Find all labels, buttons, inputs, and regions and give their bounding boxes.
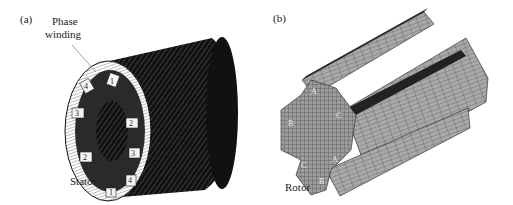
- leader-line: [72, 45, 96, 72]
- rotor-mesh-illustration: A B C A C B: [256, 0, 513, 205]
- phase-number: 4: [128, 176, 132, 185]
- phase-number: 3: [131, 149, 135, 158]
- panel-tag-b: (b): [273, 12, 286, 24]
- label-winding: winding: [45, 28, 81, 40]
- figure-panel-rotor: A B C A C B (b) Rotor: [256, 0, 513, 205]
- label-phase: Phase: [52, 15, 78, 27]
- phase-number: 4: [84, 82, 88, 91]
- label-rotor: Rotor: [285, 181, 310, 193]
- stator-mesh-illustration: 1 2 3 4 1 2 3 4: [0, 0, 256, 205]
- pole-letter: C: [336, 111, 341, 120]
- phase-number: 1: [109, 188, 113, 197]
- pole-letter: B: [288, 119, 293, 128]
- pole-letter: C: [301, 161, 306, 170]
- label-stator: Stator: [70, 175, 96, 187]
- pole-letter: B: [319, 177, 324, 186]
- phase-number: 2: [129, 119, 133, 128]
- panel-tag-a: (a): [20, 13, 32, 25]
- pole-letter: A: [332, 155, 338, 164]
- phase-number: 2: [83, 153, 87, 162]
- pole-letter: A: [311, 87, 317, 96]
- figure-panel-stator: 1 2 3 4 1 2 3 4 (a) Phase winding Stator: [0, 0, 256, 205]
- phase-number: 3: [75, 109, 79, 118]
- phase-number: 1: [110, 77, 114, 86]
